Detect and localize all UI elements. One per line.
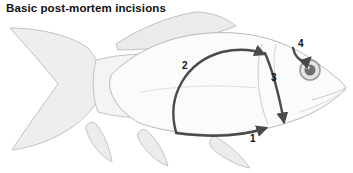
incision-label-4: 4 bbox=[298, 38, 304, 49]
eye bbox=[300, 60, 320, 80]
pelvic-fin-shape bbox=[138, 129, 168, 166]
anal-fin-shape bbox=[86, 122, 112, 162]
incision-label-2: 2 bbox=[182, 60, 188, 71]
figure-title: Basic post-mortem incisions bbox=[6, 2, 166, 14]
post-mortem-incisions-figure: Basic post-mortem incisions bbox=[0, 0, 353, 173]
incision-label-1: 1 bbox=[250, 133, 256, 144]
fish-diagram bbox=[0, 0, 353, 173]
pectoral-fin-shape bbox=[210, 136, 250, 168]
incision-label-3: 3 bbox=[271, 72, 277, 83]
